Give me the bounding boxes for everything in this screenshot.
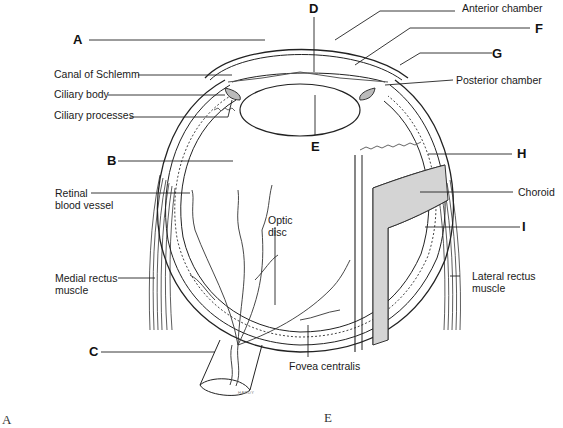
label-letter-c: C [89,345,98,359]
ciliary-body-right [360,88,375,100]
label-letter-d: D [309,2,318,16]
cutoff-letter-e: E [324,410,332,426]
cutoff-letter-a: A [2,412,11,428]
label-ciliary-body: Ciliary body [54,88,109,100]
label-posterior-chamber: Posterior chamber [456,74,542,86]
retinal-blood-vessels [190,185,350,345]
label-letter-b: B [107,154,116,168]
cornea [205,50,408,79]
label-lateral-rectus-muscle: Lateral rectus muscle [472,270,536,294]
label-ciliary-processes: Ciliary processes [54,109,134,121]
label-letter-i: I [522,220,526,234]
label-optic-disc: Optic disc [268,214,293,238]
cutaway-section [355,155,448,352]
leader-lines [89,11,530,357]
label-anterior-chamber: Anterior chamber [462,2,543,14]
lens [240,84,360,136]
label-letter-h: H [517,147,526,161]
label-retinal-blood-vessel: Retinal blood vessel [55,187,113,211]
optic-nerve [200,340,262,395]
label-letter-a: A [73,33,82,47]
iris [232,73,385,82]
label-fovea-centralis: Fovea centralis [289,360,360,372]
label-letter-g: G [492,47,502,61]
label-canal-of-schlemm: Canal of Schlemm [54,68,140,80]
artist-signature: HARDY [238,390,255,395]
label-medial-rectus-muscle: Medial rectus muscle [55,272,117,296]
label-letter-e: E [311,140,320,154]
label-choroid: Choroid [518,186,555,198]
label-letter-f: F [535,22,543,36]
